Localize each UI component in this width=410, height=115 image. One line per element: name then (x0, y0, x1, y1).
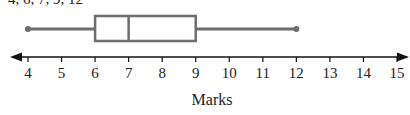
tick-label: 8 (158, 65, 166, 81)
tick-label: 12 (289, 65, 304, 81)
left-arrow-icon (10, 53, 22, 62)
number-line-axis: 456789101112131415 (10, 53, 409, 82)
tick-label: 7 (125, 65, 133, 81)
iqr-box (95, 16, 196, 41)
x-axis-title: Marks (192, 91, 233, 108)
right-arrow-icon (397, 53, 409, 62)
tick-label: 6 (91, 65, 99, 81)
tick-label: 10 (222, 65, 237, 81)
tick-label: 4 (24, 65, 32, 81)
tick-label: 5 (58, 65, 66, 81)
tick-label: 13 (322, 65, 337, 81)
tick-label: 14 (356, 65, 372, 81)
tick-label: 15 (390, 65, 405, 81)
max-point (293, 26, 299, 32)
box-plot (25, 16, 299, 41)
min-point (25, 26, 31, 32)
tick-label: 9 (192, 65, 200, 81)
box-plot-chart: 456789101112131415 Marks (0, 0, 410, 115)
tick-label: 11 (256, 65, 270, 81)
